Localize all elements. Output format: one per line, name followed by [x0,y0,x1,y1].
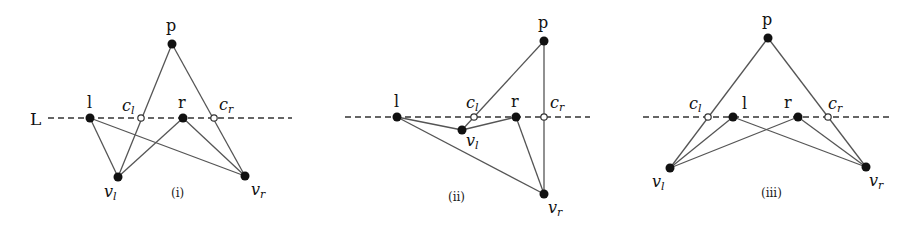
diagram-iii: p l r cl cr vl vr (iii) [643,10,893,200]
crossing-cr [541,114,547,120]
label-vr: vr [251,180,266,201]
vertex-p [168,40,177,49]
figure-canvas: L p l r cl cr vl vr (i) [0,0,913,227]
label-cr: cr [550,93,565,114]
caption-ii: (ii) [448,190,465,204]
caption-iii: (iii) [761,186,782,200]
label-vl: vl [652,172,665,193]
label-r: r [178,93,186,112]
edge-r-vr [798,117,866,167]
label-vl: vl [466,131,479,152]
label-l: l [742,94,747,113]
crossing-cr [211,115,217,121]
vertex-p [540,37,549,46]
vertex-r [179,114,188,123]
diagram-i: L p l r cl cr vl vr (i) [30,16,292,203]
label-cl: cl [689,94,702,115]
label-vr: vr [869,171,884,192]
vertex-vr [241,172,250,181]
crossing-cl [471,114,477,120]
vertex-l [86,114,95,123]
label-cl: cl [122,96,135,117]
edge-l-vl [397,117,462,130]
crossing-cl [138,115,144,121]
vertex-p [764,34,773,43]
vertex-vl [114,173,123,182]
label-p: p [538,13,548,32]
edge-l-vr [733,117,866,167]
label-vr: vr [548,198,563,219]
caption-i: (i) [171,186,184,200]
label-cr: cr [219,95,234,116]
label-r: r [511,92,519,111]
vertex-r [794,113,803,122]
vertex-l [393,113,402,122]
edge-r-vr [183,118,245,176]
label-l: l [394,92,399,111]
vertex-vl [666,164,675,173]
edge-r-vl [462,117,516,130]
crossing-cl [705,114,711,120]
label-l: l [87,93,92,112]
edge-p-vr [768,38,866,167]
edge-r-vr [516,117,544,194]
edge-l-vl [670,117,733,168]
label-p: p [762,10,772,29]
vertex-r [512,113,521,122]
label-vl: vl [104,182,117,203]
diagram-ii: p l r cl cr vl vr (ii) [345,13,590,219]
label-p: p [166,16,176,35]
label-r: r [784,93,792,112]
line-label-L: L [30,109,41,129]
vertex-l [729,113,738,122]
label-cr: cr [828,94,843,115]
label-cl: cl [466,93,479,114]
edge-r-vl [118,118,183,177]
crossing-cr [825,114,831,120]
